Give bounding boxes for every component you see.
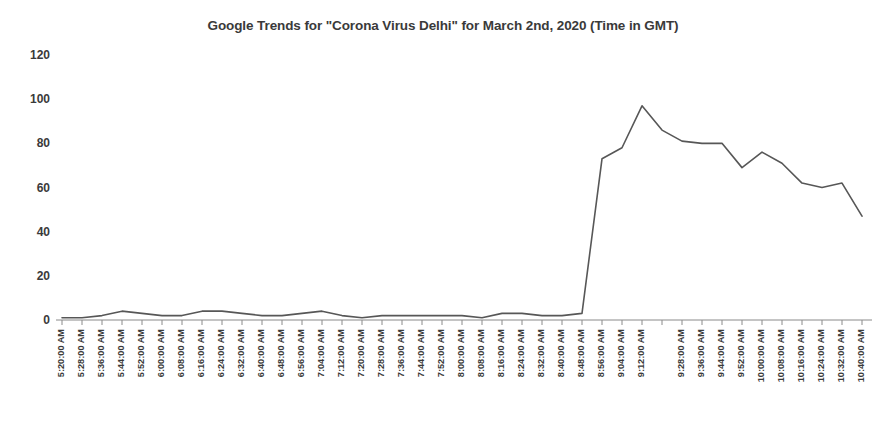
x-axis-tick-label: 9:44:00 AM xyxy=(716,329,726,378)
y-axis-tick-label: 100 xyxy=(30,92,50,106)
x-axis-tick-label: 8:32:00 AM xyxy=(536,329,546,378)
y-axis-tick-label: 60 xyxy=(37,181,51,195)
data-series-group xyxy=(62,106,862,318)
x-axis-tick-label: 9:36:00 AM xyxy=(696,329,706,378)
x-axis-tick-label: 9:28:00 AM xyxy=(676,329,686,378)
x-axis-tick-label: 7:44:00 AM xyxy=(416,329,426,378)
x-axis-tick-label: 8:00:00 AM xyxy=(456,329,466,378)
y-axis-tick-labels: 020406080100120 xyxy=(30,48,50,327)
x-axis-tick-label: 6:48:00 AM xyxy=(276,329,286,378)
x-axis-tick-label: 6:08:00 AM xyxy=(176,329,186,378)
x-axis-tick-label: 9:52:00 AM xyxy=(736,329,746,378)
x-axis-tick-label: 8:56:00 AM xyxy=(596,329,606,378)
x-axis-tick-label: 8:08:00 AM xyxy=(476,329,486,378)
x-axis-tick-label: 6:00:00 AM xyxy=(156,329,166,378)
y-axis-tick-label: 20 xyxy=(37,269,51,283)
y-axis-tick-label: 80 xyxy=(37,136,51,150)
line-chart-plot: 020406080100120 5:20:00 AM5:28:00 AM5:36… xyxy=(0,0,886,429)
x-axis-tick-label: 5:36:00 AM xyxy=(96,329,106,378)
x-axis-tick-label: 5:44:00 AM xyxy=(116,329,126,378)
x-axis-tick-label: 6:56:00 AM xyxy=(296,329,306,378)
x-axis-tick-label: 10:24:00 AM xyxy=(816,329,826,383)
x-axis-tick-label: 8:40:00 AM xyxy=(556,329,566,378)
x-axis-tick-label: 8:48:00 AM xyxy=(576,329,586,378)
x-axis-tick-marks xyxy=(62,320,862,325)
x-axis-tick-label: 10:16:00 AM xyxy=(796,329,806,383)
x-axis-tick-label: 10:40:00 AM xyxy=(856,329,866,383)
x-axis-tick-label: 6:16:00 AM xyxy=(196,329,206,378)
x-axis-tick-label: 7:36:00 AM xyxy=(396,329,406,378)
x-axis-tick-label: 7:28:00 AM xyxy=(376,329,386,378)
x-axis-tick-label: 9:04:00 AM xyxy=(616,329,626,378)
x-axis-tick-label: 8:24:00 AM xyxy=(516,329,526,378)
x-axis-tick-label: 10:08:00 AM xyxy=(776,329,786,383)
x-axis-tick-label: 8:16:00 AM xyxy=(496,329,506,378)
x-axis-tick-label: 5:20:00 AM xyxy=(56,329,66,378)
x-axis-tick-labels: 5:20:00 AM5:28:00 AM5:36:00 AM5:44:00 AM… xyxy=(56,329,866,383)
x-axis-tick-label: 6:32:00 AM xyxy=(236,329,246,378)
x-axis-tick-label: 7:04:00 AM xyxy=(316,329,326,378)
trend-line xyxy=(62,106,862,318)
x-axis-tick-label: 5:52:00 AM xyxy=(136,329,146,378)
x-axis-tick-label: 10:32:00 AM xyxy=(836,329,846,383)
y-axis-tick-label: 0 xyxy=(43,313,50,327)
x-axis-tick-label: 9:12:00 AM xyxy=(636,329,646,378)
x-axis-tick-label: 5:28:00 AM xyxy=(76,329,86,378)
y-axis-tick-label: 120 xyxy=(30,48,50,62)
y-axis-tick-label: 40 xyxy=(37,225,51,239)
x-axis-tick-label: 10:00:00 AM xyxy=(756,329,766,383)
x-axis-tick-label: 7:52:00 AM xyxy=(436,329,446,378)
chart-figure: Google Trends for "Corona Virus Delhi" f… xyxy=(0,0,886,429)
x-axis-tick-label: 7:20:00 AM xyxy=(356,329,366,378)
x-axis-tick-label: 6:24:00 AM xyxy=(216,329,226,378)
x-axis-tick-label: 6:40:00 AM xyxy=(256,329,266,378)
x-axis-tick-label: 7:12:00 AM xyxy=(336,329,346,378)
